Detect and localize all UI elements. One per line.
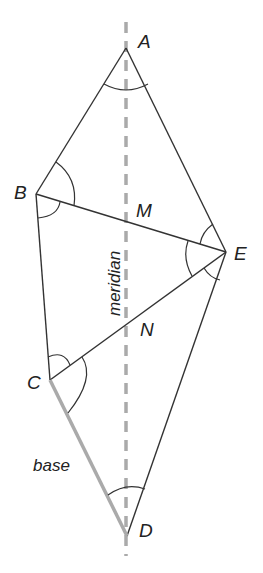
angle-arc-B-lower (38, 202, 60, 218)
edge-CE (50, 252, 226, 380)
angle-arc-C-upper (48, 355, 70, 365)
edge-BC (36, 194, 50, 380)
base-label: base (33, 456, 70, 475)
angle-arc-B-upper (56, 162, 75, 206)
triangulation-diagram: A B M E N C D meridian base (0, 0, 263, 573)
edge-AE (126, 48, 226, 252)
meridian-label: meridian (105, 251, 124, 316)
point-label-N: N (140, 319, 154, 340)
point-label-A: A (137, 31, 151, 52)
edge-ED (127, 252, 226, 536)
point-label-E: E (234, 243, 247, 264)
angle-arc-E-middle (186, 241, 192, 276)
edge-AB (36, 48, 126, 194)
point-label-M: M (136, 200, 152, 221)
angle-arc-E-upper (200, 224, 213, 244)
point-label-D: D (139, 520, 153, 541)
edge-BE (36, 194, 226, 252)
point-label-B: B (14, 182, 27, 203)
point-label-C: C (27, 372, 41, 393)
